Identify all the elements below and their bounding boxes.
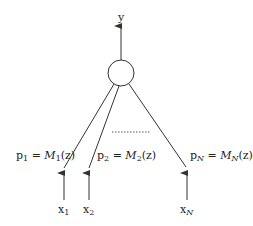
input-label-N: xN [180,203,194,217]
mixture-model-diagram: y p1 = M1(z) p2 = M2(z) pN = MN(z) x1 x2… [0,0,253,226]
input-label-2: x2 [83,203,94,217]
input-label-1: x1 [58,203,69,217]
combiner-node [108,60,134,86]
prob-label-2: p2 = M2(z) [97,149,156,163]
output-label: y [117,11,125,24]
prob-label-N: pN = MN(z) [190,149,253,163]
prob-label-1: p1 = M1(z) [16,149,75,163]
